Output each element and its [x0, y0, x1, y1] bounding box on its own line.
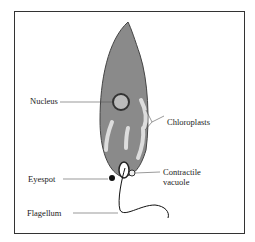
chloroplast — [126, 128, 128, 148]
label-contractile-vacuole-line2: vacuole — [163, 178, 189, 187]
contractile-vacuole — [129, 170, 135, 176]
label-eyespot: Eyespot — [28, 175, 55, 184]
label-chloroplasts: Chloroplasts — [167, 118, 210, 127]
nucleus — [113, 94, 129, 110]
label-flagellum: Flagellum — [27, 209, 61, 218]
label-contractile-vacuole-line1: Contractile — [163, 168, 201, 177]
label-nucleus: Nucleus — [30, 97, 58, 106]
eyespot — [109, 175, 115, 181]
euglena-diagram — [0, 0, 255, 242]
